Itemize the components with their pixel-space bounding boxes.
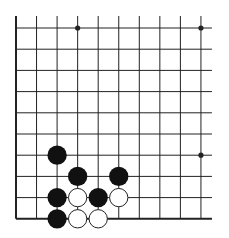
star-point-icon (75, 25, 80, 30)
black-stone (47, 209, 66, 228)
star-point-icon (198, 153, 203, 158)
black-stone (47, 188, 66, 207)
white-stone (89, 210, 107, 228)
star-point-icon (198, 25, 203, 30)
black-stone (68, 167, 87, 186)
white-stone (68, 188, 86, 206)
black-stone (109, 167, 128, 186)
white-stone (110, 188, 128, 206)
grid-lines (16, 16, 212, 219)
black-stone (47, 146, 66, 165)
stones (47, 146, 128, 229)
white-stone (68, 210, 86, 228)
go-board (0, 0, 229, 238)
black-stone (89, 188, 108, 207)
